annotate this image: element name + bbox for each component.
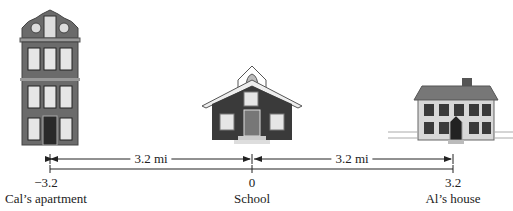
number-line bbox=[0, 0, 513, 211]
tick-value-cal: −3.2 bbox=[34, 175, 58, 191]
number-line-diagram: 3.2 mi 3.2 mi −3.2 0 3.2 Cal’s apartment… bbox=[0, 0, 513, 211]
tick-value-al: 3.2 bbox=[445, 175, 461, 191]
point-label-cal: Cal’s apartment bbox=[5, 191, 87, 207]
point-label-school: School bbox=[234, 191, 270, 207]
segment-label-school-al: 3.2 mi bbox=[331, 151, 372, 167]
tick-value-school: 0 bbox=[249, 175, 256, 191]
segment-label-cal-school: 3.2 mi bbox=[130, 151, 171, 167]
point-label-al: Al’s house bbox=[425, 191, 480, 207]
